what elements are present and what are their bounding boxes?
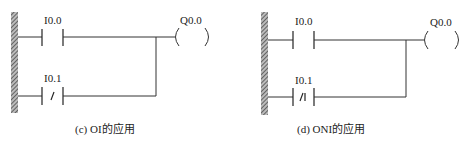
ladder-diagram-d: I0.0 Q0.0 I0.1 (d) ONI的应用 bbox=[261, 12, 459, 136]
contact-label-bottom: I0.1 bbox=[295, 74, 312, 86]
power-rail-left bbox=[261, 12, 268, 115]
nc-slash bbox=[300, 93, 303, 101]
ladder-diagrams-canvas: I0.0 Q0.0 I0.1 (c) OI的应用 I0.0 bbox=[0, 0, 466, 145]
coil-label: Q0.0 bbox=[430, 16, 452, 28]
nc-slash bbox=[51, 92, 54, 100]
coil-q00[interactable] bbox=[176, 28, 209, 46]
coil-q00[interactable] bbox=[425, 31, 459, 49]
contact-label-top: I0.0 bbox=[44, 14, 62, 26]
contact-nc-i01[interactable] bbox=[293, 88, 314, 106]
contact-nc-i01[interactable] bbox=[42, 87, 63, 105]
ladder-diagram-c: I0.0 Q0.0 I0.1 (c) OI的应用 bbox=[11, 12, 209, 136]
contact-label-bottom: I0.1 bbox=[44, 72, 61, 84]
coil-label: Q0.0 bbox=[180, 14, 202, 26]
contact-label-top: I0.0 bbox=[295, 15, 313, 27]
caption-c: (c) OI的应用 bbox=[75, 122, 135, 136]
contact-no-i00[interactable] bbox=[293, 31, 314, 49]
power-rail-left bbox=[11, 12, 18, 113]
contact-no-i00[interactable] bbox=[42, 29, 63, 46]
caption-d: (d) ONI的应用 bbox=[297, 122, 365, 136]
